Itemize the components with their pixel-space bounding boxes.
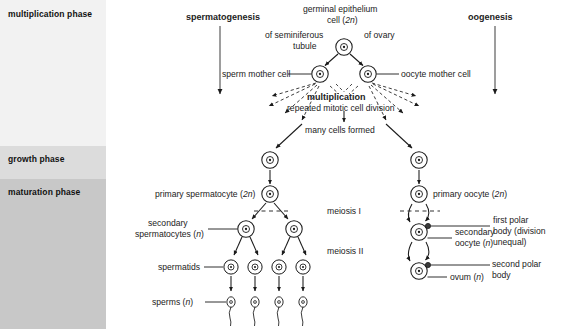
second-polar-body [425,262,430,267]
spermatid-cell-4 [296,260,310,274]
first-polar-body-label-line3: unequal) [493,237,526,248]
of-ovary-label: of ovary [364,30,395,41]
repeated-mitotic-label: repeated mitotic cell division [287,103,394,114]
primary-oocyte-label: primary oocyte (2n) [433,189,507,200]
sperm-cell-3 [275,297,283,326]
secondary-oocyte-cell [411,224,427,240]
spermatids-label: spermatids [158,262,200,273]
spermatid-cell-1 [224,260,238,274]
sperm-mother-cell [312,66,328,82]
oocyte-mother-cell [360,66,376,82]
multiplication-label: multiplication [307,92,366,103]
sperm-cell-4 [299,297,307,326]
secondary-spermatocytes-label-line2: spermatocytes (n) [135,229,204,240]
second-polar-body-label-line2: body [492,270,511,281]
first-polar-body [425,223,430,228]
first-polar-body-label-line1: first polar [493,215,528,226]
title-oogenesis: oogenesis [468,12,513,23]
meiosis-one-label: meiosis I [327,206,361,217]
many-cells-formed-label: many cells formed [305,125,375,136]
secondary-spermatocyte-cell-left [238,221,254,237]
tubule-label: tubule [293,41,316,52]
sperm-cell-2 [251,297,259,326]
primary-spermatocyte-label: primary spermatocyte (2n) [155,189,255,200]
first-polar-body-label-line2: body (division [493,226,546,237]
oocyte-mother-cell-label: oocyte mother cell [401,69,471,80]
secondary-spermatocyte-cell-right [286,221,302,237]
second-polar-body-label-line1: second polar [492,259,541,270]
secondary-spermatocytes-label-line1: secondary [148,218,188,229]
ovum-label: ovum (n) [450,272,484,283]
germinal-epithelium-label-line2: cell (2n) [327,15,358,26]
spermatid-cell-3 [272,260,286,274]
secondary-oocyte-label-line2: oocyte (n) [455,238,493,249]
sperms-label: sperms (n) [152,297,193,308]
growth-cell-female [411,152,427,168]
sperm-mother-cell-label: sperm mother cell [222,69,290,80]
primary-spermatocyte-cell [262,186,278,202]
seminiferous-label: of seminiferous [265,30,323,41]
meiosis-two-label: meiosis II [327,246,363,257]
spermatid-cell-2 [248,260,262,274]
germinal-epithelium-label-line1: germinal epithelium [303,4,378,15]
primary-oocyte-cell [411,186,427,202]
sperm-cell-1 [227,297,235,326]
ovum-cell [411,263,427,279]
germinal-epithelium-cell [336,39,352,55]
secondary-oocyte-label-line1: secondary [455,227,495,238]
growth-cell-male [262,152,278,168]
title-spermatogenesis: spermatogenesis [186,12,260,23]
